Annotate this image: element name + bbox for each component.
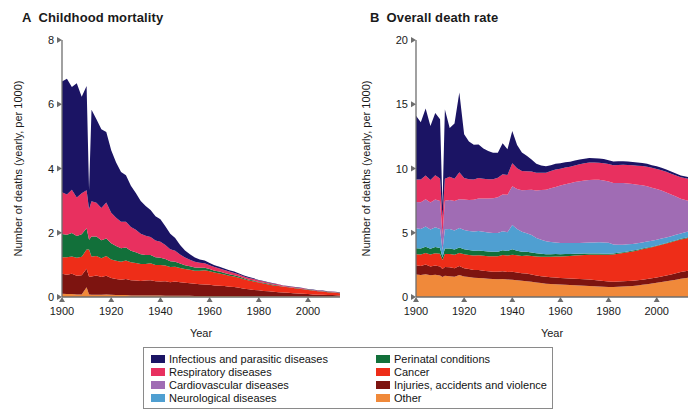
- legend-swatch-other: [376, 394, 390, 402]
- y-tick-label: 0: [402, 291, 408, 303]
- y-tick-label: 5: [402, 227, 408, 239]
- y-tick: [411, 230, 416, 236]
- y-tick-label: 10: [396, 163, 408, 175]
- y-tick: [57, 230, 62, 236]
- y-tick: [411, 101, 416, 107]
- y-tick-label: 15: [396, 98, 408, 110]
- legend-swatch-cardiovascular: [151, 381, 165, 389]
- y-tick: [57, 166, 62, 172]
- x-tick-label: 1900: [50, 305, 74, 317]
- legend-item-neurological: Neurological diseases: [151, 391, 376, 404]
- x-tick: [157, 297, 163, 302]
- x-tick-label: 1980: [247, 305, 271, 317]
- legend-label-infectious: Infectious and parasitic diseases: [169, 353, 328, 365]
- legend-label-respiratory: Respiratory diseases: [169, 366, 272, 378]
- x-tick: [654, 297, 660, 302]
- legend-swatch-perinatal: [376, 355, 390, 363]
- x-tick: [108, 297, 114, 302]
- x-tick: [256, 297, 262, 302]
- legend-item-perinatal: Perinatal conditions: [376, 352, 546, 365]
- panel-overall-death-rate: B Overall death rate 0510152019001920194…: [348, 0, 696, 340]
- legend-item-cancer: Cancer: [376, 365, 546, 378]
- legend-column-right: Perinatal conditions Cancer Injuries, ac…: [376, 352, 546, 404]
- x-tick: [207, 297, 213, 302]
- x-tick: [557, 297, 563, 302]
- legend-swatch-cancer: [376, 368, 390, 376]
- x-tick: [305, 297, 311, 302]
- x-tick-label: 1940: [148, 305, 172, 317]
- legend-swatch-injuries: [376, 381, 390, 389]
- legend-swatch-respiratory: [151, 368, 165, 376]
- y-tick: [57, 101, 62, 107]
- x-tick-label: 1940: [500, 305, 524, 317]
- panel-b-plot: 05101520190019201940196019802000YearNumb…: [348, 0, 696, 340]
- y-tick-label: 0: [48, 291, 54, 303]
- legend-item-other: Other: [376, 391, 546, 404]
- legend-swatch-infectious: [151, 355, 165, 363]
- legend-item-injuries: Injuries, accidents and violence: [376, 378, 546, 391]
- x-tick-label: 1980: [596, 305, 620, 317]
- legend-item-infectious: Infectious and parasitic diseases: [151, 352, 376, 365]
- legend: Infectious and parasitic diseases Respir…: [143, 347, 553, 409]
- x-axis-title: Year: [190, 327, 213, 339]
- y-tick: [411, 166, 416, 172]
- y-axis-title: Number of deaths (yearly, per 1000): [360, 81, 372, 257]
- x-tick: [461, 297, 467, 302]
- y-tick: [411, 37, 416, 43]
- legend-label-other: Other: [394, 392, 422, 404]
- legend-label-cardiovascular: Cardiovascular diseases: [169, 379, 289, 391]
- x-tick-label: 1960: [548, 305, 572, 317]
- y-tick-label: 20: [396, 34, 408, 46]
- y-tick-label: 4: [48, 163, 54, 175]
- y-tick-label: 6: [48, 98, 54, 110]
- x-tick-label: 2000: [296, 305, 320, 317]
- y-tick-label: 8: [48, 34, 54, 46]
- x-tick-label: 2000: [644, 305, 668, 317]
- x-tick-label: 1920: [99, 305, 123, 317]
- y-axis-title: Number of deaths (yearly, per 1000): [12, 81, 24, 257]
- y-tick: [57, 37, 62, 43]
- legend-item-respiratory: Respiratory diseases: [151, 365, 376, 378]
- x-tick-label: 1960: [197, 305, 221, 317]
- x-axis-title: Year: [541, 327, 564, 339]
- x-tick: [606, 297, 612, 302]
- x-tick-label: 1920: [452, 305, 476, 317]
- y-tick-label: 2: [48, 227, 54, 239]
- legend-column-left: Infectious and parasitic diseases Respir…: [151, 352, 376, 404]
- x-tick: [509, 297, 515, 302]
- x-tick-label: 1900: [404, 305, 428, 317]
- legend-label-cancer: Cancer: [394, 366, 429, 378]
- figure-root: A Childhood mortality 024681900192019401…: [0, 0, 696, 416]
- panel-childhood-mortality: A Childhood mortality 024681900192019401…: [0, 0, 348, 340]
- legend-label-injuries: Injuries, accidents and violence: [394, 379, 547, 391]
- panel-a-plot: 02468190019201940196019802000YearNumber …: [0, 0, 348, 340]
- legend-swatch-neurological: [151, 394, 165, 402]
- legend-label-perinatal: Perinatal conditions: [394, 353, 490, 365]
- legend-label-neurological: Neurological diseases: [169, 392, 277, 404]
- legend-item-cardiovascular: Cardiovascular diseases: [151, 378, 376, 391]
